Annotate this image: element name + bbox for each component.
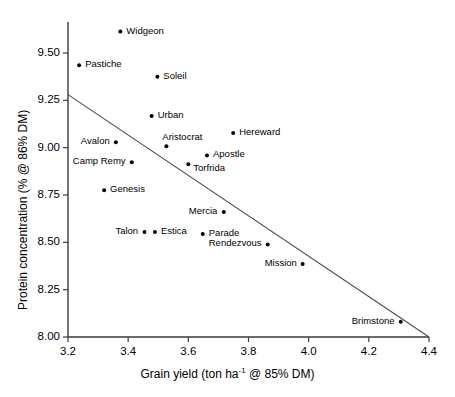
data-point-marker [155,75,159,79]
data-point-label: Urban [158,110,184,120]
y-tick-label: 9.50 [12,46,60,58]
data-point-marker [130,160,134,164]
data-point-label: Mercia [189,206,218,216]
data-point-label: Rendezvous [209,238,262,248]
x-axis-title: Grain yield (ton ha-1 @ 85% DM) [0,367,455,381]
data-point-marker [266,242,270,246]
scatter-plot-figure: 8.008.258.508.759.009.259.503.23.43.63.8… [0,0,455,397]
data-point-marker [301,262,305,266]
x-tick-label: 4.2 [344,345,394,357]
x-tick-label: 4.0 [284,345,334,357]
data-point-label: Torfrida [193,163,225,173]
y-tick-label: 9.25 [12,93,60,105]
data-point-label: Soleil [163,71,186,81]
data-point-marker [201,232,205,236]
data-point-marker [399,320,403,324]
y-axis-title: Protein concentration (% @ 86% DM) [16,110,30,310]
data-point-marker [164,144,168,148]
data-point-label: Pastiche [85,59,121,69]
data-point-marker [153,230,157,234]
x-tick-label: 3.6 [163,345,213,357]
x-tick-label: 4.4 [404,345,454,357]
data-point-label: Apostle [213,149,245,159]
plot-canvas [0,0,455,397]
y-tick-label: 8.00 [12,330,60,342]
x-tick-label: 3.2 [43,345,93,357]
data-point-marker [150,114,154,118]
x-tick-label: 3.8 [224,345,274,357]
x-tick-label: 3.4 [103,345,153,357]
data-point-label: Hereward [239,127,280,137]
x-axis-title-exponent: -1 [239,366,246,375]
data-point-label: Mission [265,258,297,268]
data-point-label: Genesis [110,184,145,194]
data-point-marker [205,153,209,157]
data-point-label: Talon [115,226,138,236]
data-point-label: Brimstone [352,316,395,326]
data-point-marker [77,63,81,67]
data-point-marker [118,30,122,34]
x-axis-title-prefix: Grain yield (ton ha [140,367,238,381]
axes [63,22,429,342]
data-point-label: Widgeon [126,26,164,36]
data-point-marker [102,188,106,192]
data-point-marker [186,162,190,166]
data-point-marker [114,140,118,144]
data-point-marker [231,131,235,135]
data-point-marker [222,210,226,214]
x-axis-title-suffix: @ 85% DM) [246,367,315,381]
data-point-label: Camp Remy [73,156,126,166]
data-point-label: Estica [161,226,187,236]
data-point-label: Avalon [81,136,110,146]
data-markers [77,30,403,324]
data-point-marker [142,230,146,234]
data-point-label: Aristocrat [162,132,202,142]
